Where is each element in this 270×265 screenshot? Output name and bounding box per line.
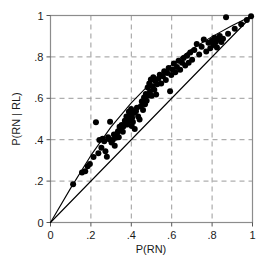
data-point [132,126,138,132]
data-point [196,51,202,57]
data-point [214,44,220,50]
data-point [116,134,122,140]
data-point [70,181,76,187]
data-point [248,13,254,19]
trend-lines-group [51,16,253,223]
data-point [107,119,113,125]
x-axis-title: P(RN) [136,244,167,255]
x-tick-label: .4 [127,230,136,241]
y-tick-label: .4 [34,134,43,145]
data-point [137,116,143,122]
data-point [104,154,110,160]
x-tick-label: .8 [208,230,217,241]
data-point [220,36,226,42]
scatter-plot-figure: 0.2.4.6.81 0.2.4.6.81 P(RN) P(RN | RL) [0,0,270,265]
data-point [223,14,229,20]
x-tick-label: .2 [86,230,95,241]
y-axis-title: P(RN | RL) [11,92,22,146]
identity-line [51,16,253,223]
data-point [177,67,183,73]
data-point [199,44,205,50]
x-tick-label: .6 [167,230,176,241]
y-tick-label: 1 [37,10,43,21]
data-point [120,129,126,135]
data-point [232,26,238,32]
data-point [153,92,159,98]
y-tick-label: .8 [34,51,43,62]
y-tick-label: .6 [34,93,43,104]
data-point [112,143,118,149]
x-tick-label: 1 [249,230,255,241]
data-point [91,154,97,160]
y-tick-label: 0 [37,217,43,228]
data-point [167,88,173,94]
data-point [95,150,101,156]
data-point [93,119,99,125]
data-point [189,57,195,63]
data-point [144,98,150,104]
data-point [238,21,244,27]
x-tick-label: 0 [47,230,53,241]
data-point [225,31,231,37]
data-point [102,148,108,154]
data-point [140,107,146,113]
data-point [163,77,169,83]
data-point [130,119,136,125]
y-tick-label: .2 [34,176,43,187]
data-point [191,47,197,53]
data-points-group [70,13,254,187]
data-point [87,161,93,167]
